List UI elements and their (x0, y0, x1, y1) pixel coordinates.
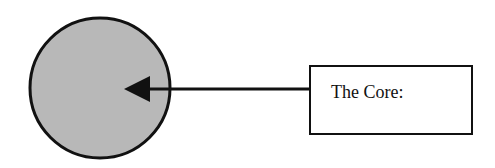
label-box: The Core: (309, 65, 473, 135)
label-text: The Core: (331, 82, 403, 103)
